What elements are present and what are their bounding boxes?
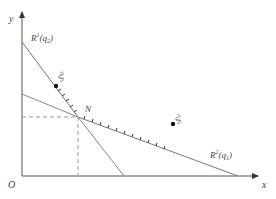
label-r2: R2(q1)	[209, 149, 232, 161]
label-r1: R1(q2)	[30, 32, 53, 44]
diagram-canvas: y x O R1(q2) R2(q1) N S0 S1	[0, 0, 276, 199]
origin-label: O	[8, 179, 15, 190]
y-axis-label: y	[8, 13, 14, 24]
hatch-marks	[58, 89, 165, 149]
point-s1	[171, 122, 175, 126]
label-n: N	[84, 104, 92, 114]
point-s0	[54, 84, 58, 88]
label-s0: S0	[55, 70, 68, 83]
line-r2-lower	[78, 117, 238, 176]
x-axis-label: x	[261, 179, 267, 190]
